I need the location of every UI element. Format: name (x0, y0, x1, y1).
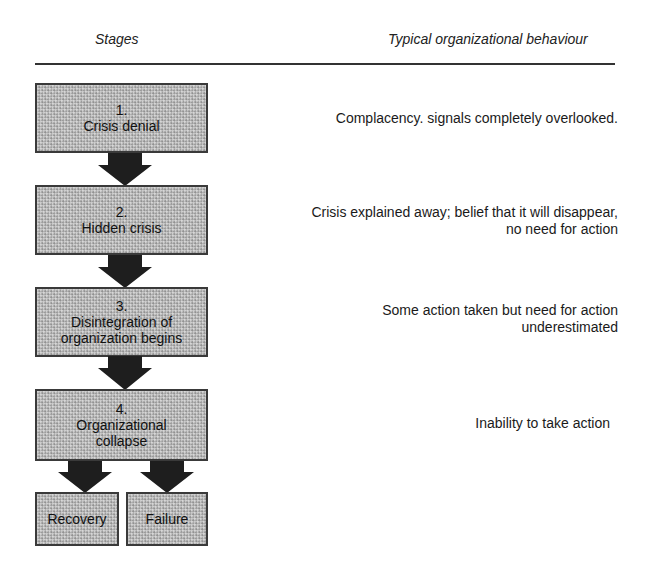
stages-column-header: Stages (95, 31, 139, 47)
stage-4-label-line-2: collapse (96, 433, 147, 449)
outcome-failure-box: Failure (126, 492, 208, 546)
stage-4-number: 4. (116, 401, 128, 417)
stage-2-behaviour-line-1: Crisis explained away; belief that it wi… (218, 204, 618, 221)
stage-4-behaviour-line-1: Inability to take action (210, 415, 610, 432)
stage-2-label: Hidden crisis (81, 220, 161, 236)
behaviour-column-header: Typical organizational behaviour (388, 31, 588, 47)
outcome-failure-label: Failure (146, 511, 189, 527)
down-arrow-icon (98, 153, 152, 186)
stage-2-behaviour: Crisis explained away; belief that it wi… (218, 204, 618, 238)
stage-4-behaviour: Inability to take action (210, 415, 610, 432)
stage-3-behaviour: Some action taken but need for action un… (218, 302, 618, 336)
stage-4-label-line-1: Organizational (76, 417, 166, 433)
stage-2-number: 2. (116, 204, 128, 220)
stage-3-box: 3. Disintegration of organization begins (35, 287, 208, 357)
stage-1-box: 1. Crisis denial (35, 83, 208, 153)
down-arrow-icon (98, 356, 152, 390)
header-divider (35, 63, 615, 65)
down-arrow-icon (98, 255, 152, 288)
stage-2-behaviour-line-2: no need for action (218, 221, 618, 238)
stage-1-behaviour: Complacency. signals completely overlook… (218, 110, 618, 127)
stage-1-number: 1. (116, 102, 128, 118)
stage-3-number: 3. (116, 298, 128, 314)
down-arrow-failure-icon (140, 461, 194, 493)
stage-3-behaviour-line-2: underestimated (218, 319, 618, 336)
outcome-recovery-box: Recovery (35, 492, 119, 546)
stage-1-label: Crisis denial (83, 118, 159, 134)
outcome-recovery-label: Recovery (47, 511, 106, 527)
stage-1-behaviour-line-1: Complacency. signals completely overlook… (218, 110, 618, 127)
stage-3-behaviour-line-1: Some action taken but need for action (218, 302, 618, 319)
stage-3-label-line-2: organization begins (61, 330, 182, 346)
stage-2-box: 2. Hidden crisis (35, 185, 208, 255)
stage-3-label-line-1: Disintegration of (71, 314, 172, 330)
down-arrow-recovery-icon (58, 461, 112, 493)
stage-4-box: 4. Organizational collapse (35, 389, 208, 461)
